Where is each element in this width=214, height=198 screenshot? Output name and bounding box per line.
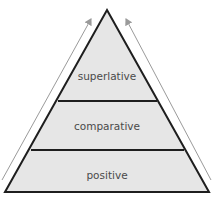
- level-label-positive: positive: [86, 169, 127, 181]
- level-label-superlative: superlative: [78, 70, 137, 82]
- level-label-comparative: comparative: [74, 120, 140, 132]
- pyramid-diagram: superlative comparative positive: [0, 0, 214, 198]
